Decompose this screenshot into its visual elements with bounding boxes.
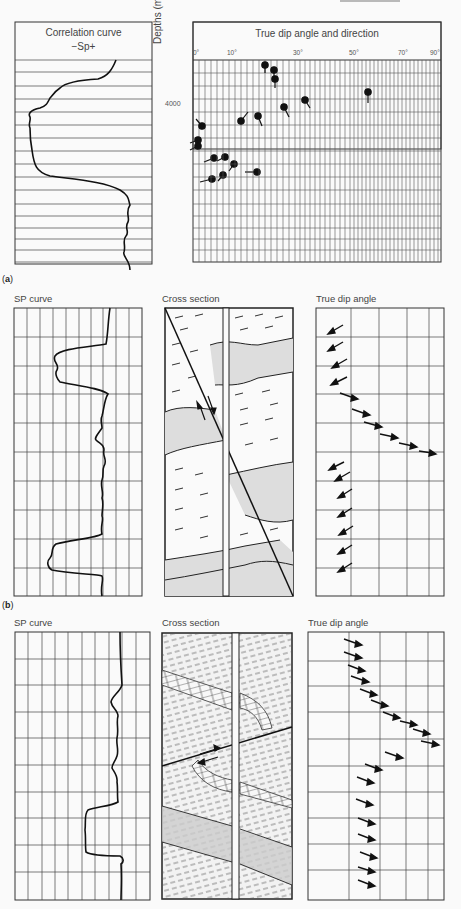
tadpoles-lower <box>200 154 260 182</box>
correlation-curve <box>29 60 130 270</box>
depth-axis-label: Depths (m) <box>152 0 163 44</box>
panel-c-sp-grid <box>15 632 150 900</box>
panel-b-sp-grid <box>14 308 142 596</box>
panel-b-dip-title: True dip angle <box>316 293 376 304</box>
panel-a-graphics <box>0 0 461 909</box>
panel-b-sp-title: SP curve <box>14 293 52 304</box>
x-tick-30: 30° <box>293 49 303 56</box>
panel-c-cross-section <box>162 633 292 899</box>
panel-b-cross-section <box>165 308 293 596</box>
panel-c-sp-curve <box>85 632 123 900</box>
panel-c-sp-title: SP curve <box>14 617 52 628</box>
x-tick-50: 50° <box>349 49 359 56</box>
dipmeter-title: True dip angle and direction <box>193 28 441 39</box>
x-tick-90: 90° <box>430 49 440 56</box>
correlation-subtitle: −Sp+ <box>15 41 152 52</box>
panel-c-cross-title: Cross section <box>162 617 220 628</box>
x-tick-0: 0° <box>193 49 199 56</box>
panel-c-dip-arrows <box>344 639 439 888</box>
dipmeter-grid <box>193 60 441 149</box>
correlation-grid <box>15 60 152 262</box>
x-tick-70: 70° <box>398 49 408 56</box>
depth-tick-4000: 4000 <box>165 100 181 107</box>
panel-c-dip-title: True dip angle <box>308 617 368 628</box>
correlation-title: Correlation curve <box>15 27 152 38</box>
panel-b-dip-arrows <box>328 325 436 572</box>
panel-a-tag: (a) <box>2 274 13 284</box>
x-tick-10: 10° <box>227 49 237 56</box>
panel-b-tag: (b) <box>2 600 14 610</box>
panel-b-cross-title: Cross section <box>162 293 220 304</box>
